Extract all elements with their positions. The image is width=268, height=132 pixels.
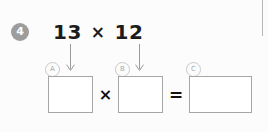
expression-right-operand: 12	[115, 20, 144, 44]
answer-row-multiply-operator: ×	[93, 76, 118, 113]
answer-box-a[interactable]	[48, 76, 93, 113]
problem-number-badge: 4	[11, 23, 29, 41]
answer-row-equals-operator: =	[163, 76, 189, 113]
answer-box-c[interactable]	[189, 76, 252, 113]
answer-box-b[interactable]	[118, 76, 163, 113]
arrow-down-icon-b	[134, 44, 145, 74]
worksheet-problem: 4 13 × 12 A B C × =	[0, 0, 268, 132]
expression-left-operand: 13	[53, 20, 82, 44]
arrow-down-icon-a	[65, 44, 76, 74]
problem-expression: 13 × 12	[53, 18, 143, 46]
column-divider	[262, 0, 263, 36]
slot-tag-a: A	[45, 62, 60, 77]
slot-tag-c: C	[186, 62, 201, 77]
expression-multiply-operator: ×	[91, 22, 106, 42]
slot-tag-b: B	[115, 62, 130, 77]
